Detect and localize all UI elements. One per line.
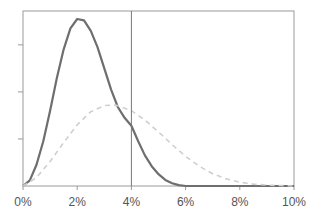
x-tick-label: 4% — [123, 195, 141, 209]
x-tick-label: 8% — [231, 195, 249, 209]
plot-area-frame — [23, 11, 294, 186]
x-tick-label: 10% — [282, 195, 306, 209]
distribution-chart: 0%2%4%6%8%10% — [0, 0, 315, 214]
x-tick-label: 6% — [177, 195, 195, 209]
x-tick-label: 0% — [14, 195, 32, 209]
x-tick-label: 2% — [69, 195, 87, 209]
